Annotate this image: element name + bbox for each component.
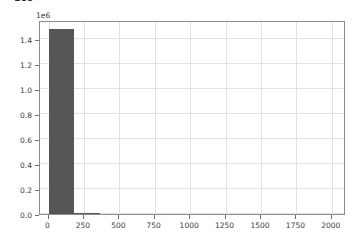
gridline-vertical	[155, 22, 156, 214]
y-axis-offset-label: 1e6	[36, 11, 50, 20]
y-tick-mark	[35, 115, 39, 116]
gridline-horizontal	[40, 188, 344, 189]
y-tick-label: 0.0	[2, 211, 32, 220]
x-tick-mark	[154, 215, 155, 219]
gridline-vertical	[190, 22, 191, 214]
y-tick-mark	[35, 215, 39, 216]
x-tick-mark	[189, 215, 190, 219]
y-tick-label: 0.8	[2, 111, 32, 120]
x-tick-mark	[331, 215, 332, 219]
x-tick-label: 1500	[240, 221, 280, 230]
gridline-horizontal	[40, 88, 344, 89]
y-tick-label: 1.4	[2, 36, 32, 45]
gridline-vertical	[332, 22, 333, 214]
x-tick-mark	[260, 215, 261, 219]
x-tick-mark	[225, 215, 226, 219]
x-tick-mark	[118, 215, 119, 219]
gridline-vertical	[261, 22, 262, 214]
x-tick-label: 500	[98, 221, 138, 230]
plot-area	[39, 21, 345, 215]
x-tick-label: 1250	[205, 221, 245, 230]
y-tick-mark	[35, 40, 39, 41]
x-tick-label: 250	[63, 221, 103, 230]
histogram-bar	[74, 213, 100, 215]
y-tick-mark	[35, 190, 39, 191]
y-tick-label: 1.2	[2, 61, 32, 70]
gridline-horizontal	[40, 163, 344, 164]
x-tick-label: 0	[28, 221, 68, 230]
x-tick-label: 1000	[169, 221, 209, 230]
gridline-vertical	[84, 22, 85, 214]
x-tick-mark	[48, 215, 49, 219]
x-tick-mark	[295, 215, 296, 219]
gridline-vertical	[296, 22, 297, 214]
gridline-horizontal	[40, 138, 344, 139]
histogram-figure: 1e6 1e6 0.00.20.40.60.81.01.21.4 0250500…	[0, 0, 353, 242]
x-tick-mark	[83, 215, 84, 219]
x-tick-label: 750	[134, 221, 174, 230]
gridline-vertical	[119, 22, 120, 214]
histogram-bar	[49, 29, 75, 214]
y-tick-label: 0.6	[2, 136, 32, 145]
y-tick-label: 1.0	[2, 86, 32, 95]
clipped-title-text: 1e6	[14, 0, 33, 3]
x-tick-label: 1750	[275, 221, 315, 230]
y-tick-mark	[35, 140, 39, 141]
y-tick-mark	[35, 65, 39, 66]
y-tick-label: 0.4	[2, 161, 32, 170]
gridline-horizontal	[40, 38, 344, 39]
y-tick-mark	[35, 90, 39, 91]
gridline-vertical	[226, 22, 227, 214]
x-tick-label: 2000	[311, 221, 351, 230]
y-tick-label: 0.2	[2, 186, 32, 195]
y-tick-mark	[35, 165, 39, 166]
gridline-horizontal	[40, 113, 344, 114]
gridline-horizontal	[40, 63, 344, 64]
